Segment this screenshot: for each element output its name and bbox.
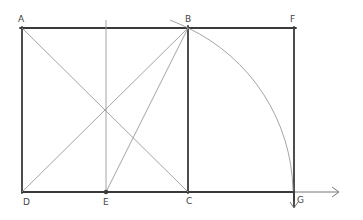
label-A: A (18, 14, 25, 24)
point-E-dot (104, 190, 108, 194)
label-F: F (290, 14, 295, 24)
label-E: E (103, 197, 109, 207)
label-B: B (185, 14, 191, 24)
label-D: D (23, 197, 30, 207)
label-G: G (297, 195, 304, 205)
label-C: C (186, 196, 192, 206)
segment-EB (106, 28, 188, 192)
golden-rectangle-diagram: A B F D E C G (0, 0, 363, 220)
